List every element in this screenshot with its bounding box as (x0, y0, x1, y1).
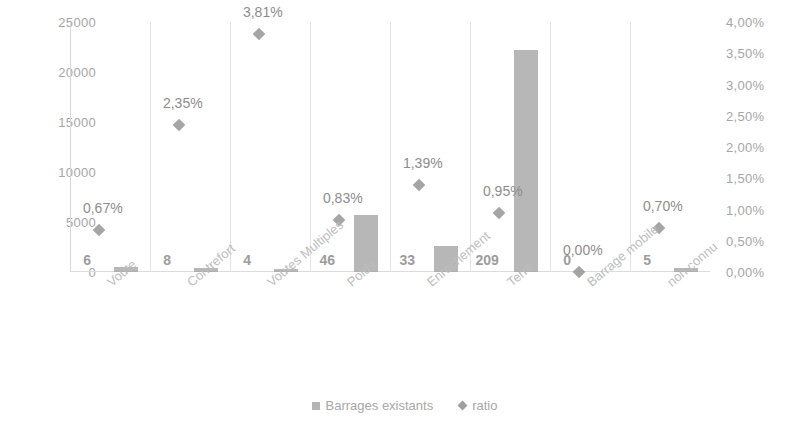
y-axis-line (70, 22, 71, 272)
legend-label-barrages-existants: Barrages existants (326, 398, 434, 413)
bar (514, 50, 538, 272)
legend-item-ratio: ratio (459, 398, 497, 413)
ratio-value-label: 0,67% (83, 200, 123, 216)
bar-value-label: 46 (319, 252, 335, 268)
right-axis-tick: 3,00% (726, 77, 796, 92)
ratio-value-label: 3,81% (243, 4, 283, 20)
right-axis-tick: 0,50% (726, 233, 796, 248)
chart-root: 0500010000150002000025000 0,00%0,50%1,00… (0, 0, 809, 439)
chart-legend: Barrages existants ratio (0, 398, 809, 413)
ratio-value-label: 0,70% (643, 198, 683, 214)
ratio-marker (493, 206, 506, 219)
ratio-value-label: 0,00% (563, 242, 603, 258)
legend-item-barrages-existants: Barrages existants (312, 398, 434, 413)
ratio-value-label: 1,39% (403, 155, 443, 171)
category-separator (310, 22, 311, 272)
category-separator (390, 22, 391, 272)
right-axis-tick: 2,50% (726, 108, 796, 123)
right-axis-tick: 1,00% (726, 202, 796, 217)
ratio-marker (93, 224, 106, 237)
right-axis-tick: 3,50% (726, 46, 796, 61)
category-separator (470, 22, 471, 272)
bar-value-label: 8 (163, 252, 171, 268)
ratio-marker (573, 266, 586, 279)
bar-value-label: 4 (243, 252, 251, 268)
ratio-marker (413, 179, 426, 192)
right-axis-tick: 2,00% (726, 140, 796, 155)
category-separator (630, 22, 631, 272)
bar-value-label: 33 (399, 252, 415, 268)
category-separator (230, 22, 231, 272)
ratio-marker (253, 28, 266, 41)
ratio-marker (173, 119, 186, 132)
plot-area: 684463320905 0,67%2,35%3,81%0,83%1,39%0,… (70, 22, 710, 272)
category-separator (550, 22, 551, 272)
bar-value-label: 209 (476, 252, 499, 268)
diamond-marker-icon (458, 401, 468, 411)
category-separator (150, 22, 151, 272)
right-axis-tick: 1,50% (726, 171, 796, 186)
square-marker-icon (312, 402, 320, 410)
right-axis-tick: 4,00% (726, 15, 796, 30)
right-axis-tick: 0,00% (726, 265, 796, 280)
ratio-value-label: 2,35% (163, 95, 203, 111)
ratio-value-label: 0,95% (483, 183, 523, 199)
ratio-value-label: 0,83% (323, 190, 363, 206)
legend-label-ratio: ratio (472, 398, 497, 413)
bar-value-label: 5 (643, 252, 651, 268)
bar-value-label: 6 (83, 252, 91, 268)
